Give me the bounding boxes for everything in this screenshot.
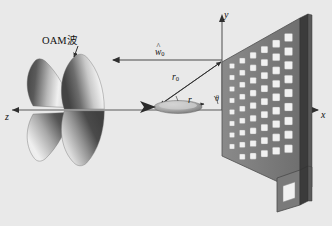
x-axis-label: x [321,110,325,120]
y-axis-label: y [224,10,228,20]
r0-subscript: 0 [176,75,179,82]
beam-waist-label: w^0 [155,48,165,58]
panel-side-thickness [300,14,308,192]
feed-arrowhead [140,101,156,113]
beam-waist-subscript: 0 [161,50,164,57]
panel-rim [308,14,312,188]
beam-waist-hat-accent: ^ [157,43,161,51]
z-axis-arrowhead [12,107,19,113]
feed-element [140,96,202,114]
x-axis-arrowhead [312,107,319,113]
z-axis-label: z [5,112,9,122]
oam-lobe-upper-right [59,53,104,111]
oam-wave-label: OAM波 [42,36,77,47]
diagram-canvas [0,0,332,226]
metasurface-array [222,14,312,192]
r0-label: r0 [172,73,179,83]
r-label: r [188,96,192,106]
oam-lobe-lower-right [59,109,104,167]
oam-metasurface-diagram: OAM波 y x z w^0 r0 r θ [0,0,332,226]
theta-angle-label: θ [215,95,219,103]
